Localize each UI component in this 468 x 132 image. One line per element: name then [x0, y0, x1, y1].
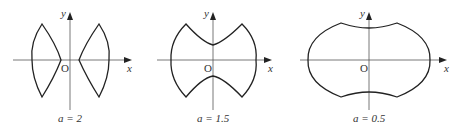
panel-a-0-5: y x O a = 0.5 [300, 7, 449, 124]
y-label: y [60, 7, 66, 19]
panel-a-2: y x O a = 2 [13, 7, 132, 124]
y-axis-arrow-icon [366, 12, 372, 20]
curve-left-branch [32, 24, 61, 97]
y-label: y [203, 7, 209, 19]
diagram-canvas: y x O a = 2 y x O a = 1.5 y x O a = 0.5 [0, 0, 468, 132]
caption-a-2: a = 2 [58, 112, 82, 124]
curve-right-branch [79, 24, 109, 97]
origin-label: O [360, 62, 368, 74]
origin-label: O [61, 62, 69, 74]
y-axis-arrow-icon [67, 12, 73, 20]
curve-closed [171, 24, 256, 97]
x-label: x [126, 62, 132, 74]
x-label: x [267, 62, 273, 74]
origin-label: O [204, 62, 212, 74]
y-label: y [359, 7, 365, 19]
y-axis-arrow-icon [210, 12, 216, 20]
panel-a-1-5: y x O a = 1.5 [157, 7, 273, 124]
caption-a-1-5: a = 1.5 [197, 112, 230, 124]
x-label: x [443, 62, 449, 74]
caption-a-0-5: a = 0.5 [353, 112, 386, 124]
